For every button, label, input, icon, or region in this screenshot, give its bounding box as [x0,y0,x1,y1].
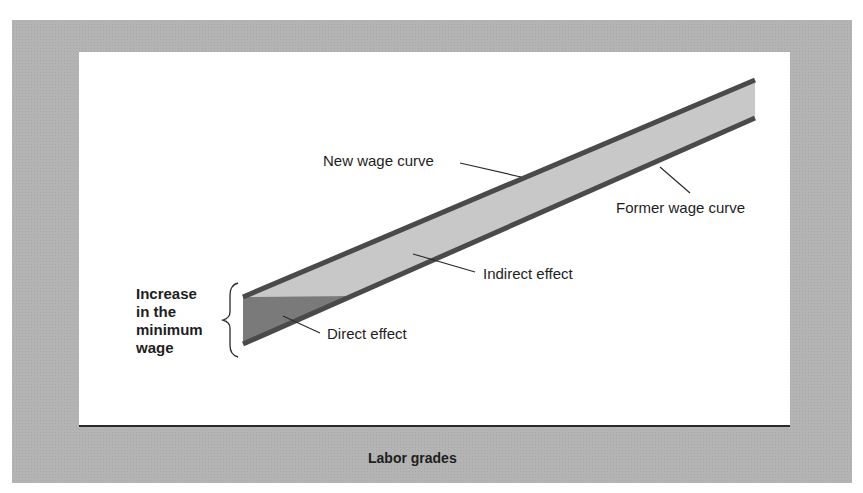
former-wage-curve-label: Former wage curve [616,199,745,217]
increase-minimum-wage-label: Increase in the minimum wage [136,285,203,357]
indirect-effect-label: Indirect effect [483,265,573,283]
x-axis-label: Labor grades [368,449,457,467]
new-wage-curve-label: New wage curve [323,152,434,170]
direct-effect-label: Direct effect [327,325,407,343]
new-wage-leader [460,163,521,177]
wage-curve-diagram [0,0,863,493]
brace-icon [223,283,238,357]
former-wage-leader [660,167,690,193]
former-wage-curve [243,118,755,344]
